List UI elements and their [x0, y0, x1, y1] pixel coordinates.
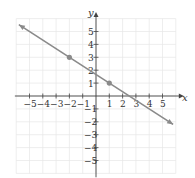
axes: [15, 12, 184, 177]
x-tick-label: 1: [107, 99, 113, 109]
x-tick-label: −3: [50, 99, 64, 109]
x-tick-label: −5: [24, 99, 38, 109]
y-tick-label: −3: [84, 130, 98, 140]
x-tick-label: 5: [160, 99, 166, 109]
y-axis-arrow-icon: [94, 12, 99, 17]
data-point: [67, 55, 72, 60]
x-tick-label: 2: [120, 99, 126, 109]
y-tick-label: 1: [88, 79, 94, 89]
x-axis-label: x: [182, 92, 188, 103]
y-tick-label: −4: [84, 143, 98, 153]
y-tick-label: −5: [84, 156, 98, 166]
y-tick-label: −2: [84, 117, 97, 127]
y-tick-label: 4: [88, 40, 94, 50]
y-axis-label: y: [87, 7, 94, 18]
y-tick-label: 5: [88, 27, 94, 37]
data-point: [107, 81, 112, 86]
y-tick-label: 3: [88, 53, 94, 63]
y-tick-label: −1: [84, 104, 97, 114]
coordinate-plane: −5−4−3−2−112345−5−4−3−2−112345 x y: [0, 0, 195, 178]
x-tick-label: −2: [63, 99, 76, 109]
tick-labels: −5−4−3−2−112345−5−4−3−2−112345: [24, 27, 167, 166]
x-tick-label: −4: [37, 99, 51, 109]
